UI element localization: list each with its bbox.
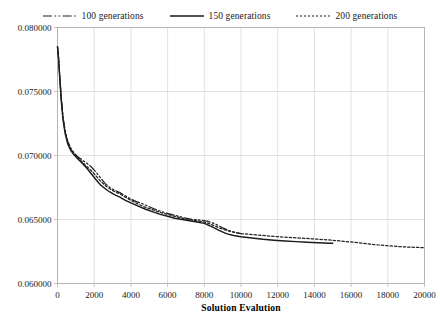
x-tick-label: 20000	[413, 290, 436, 300]
x-tick-label: 10000	[230, 290, 253, 300]
plot-area: 0.0600000.0650000.0700000.0750000.080000…	[0, 0, 440, 320]
x-tick-label: 2000	[85, 290, 104, 300]
x-tick-label: 4000	[122, 290, 141, 300]
x-tick-label: 12000	[266, 290, 289, 300]
y-tick-label: 0.075000	[18, 87, 52, 97]
y-axis-tick-labels: 0.0600000.0650000.0700000.0750000.080000	[18, 23, 52, 289]
x-tick-label: 16000	[340, 290, 363, 300]
x-tick-label: 8000	[195, 290, 214, 300]
y-tick-label: 0.060000	[18, 279, 52, 289]
y-tick-label: 0.065000	[18, 215, 52, 225]
series-line-150-generations	[58, 47, 333, 244]
grid-lines	[54, 28, 425, 288]
series-line-100-generations	[58, 47, 242, 234]
x-tick-label: 6000	[159, 290, 178, 300]
x-tick-label: 0	[55, 290, 60, 300]
x-tick-label: 18000	[377, 290, 400, 300]
x-axis-title: Solution Evalution	[201, 303, 281, 313]
y-tick-label: 0.080000	[18, 23, 52, 33]
x-tick-label: 14000	[303, 290, 326, 300]
x-axis-tick-labels: 0200040006000800010000120001400016000180…	[55, 290, 436, 300]
chart-figure: 100 generations 150 generations 200 gene…	[0, 0, 440, 320]
y-tick-label: 0.070000	[18, 151, 52, 161]
